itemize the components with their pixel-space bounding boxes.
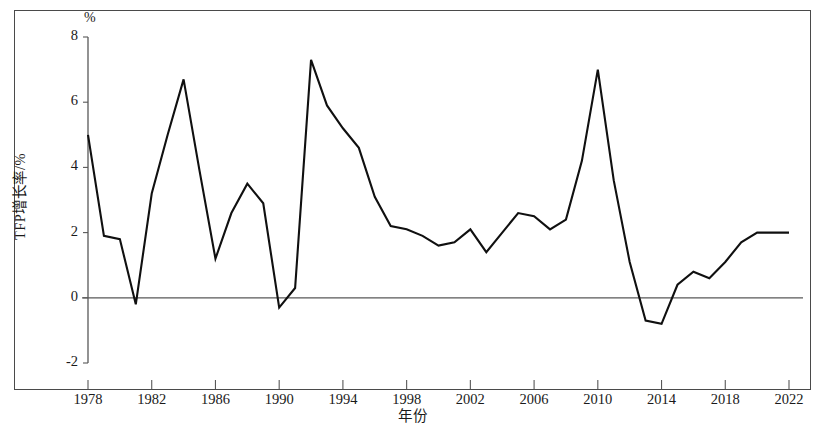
y-axis-title: TFP增长率/% xyxy=(8,117,29,277)
y-axis-tick-label: -2 xyxy=(36,353,78,370)
series-group xyxy=(88,60,789,324)
y-axis-tick-label: 4 xyxy=(36,157,78,174)
axes-group xyxy=(82,37,803,389)
y-axis-tick-label: 2 xyxy=(36,223,78,240)
line-chart-plot xyxy=(0,0,825,434)
y-axis-tick-label: 0 xyxy=(36,288,78,305)
y-axis-tick-label: 8 xyxy=(36,27,78,44)
x-axis-title: 年份 xyxy=(0,404,825,425)
y-axis-tick-label: 6 xyxy=(36,92,78,109)
figure-container: % 86420-2 197819821986199019941998200220… xyxy=(0,0,825,434)
